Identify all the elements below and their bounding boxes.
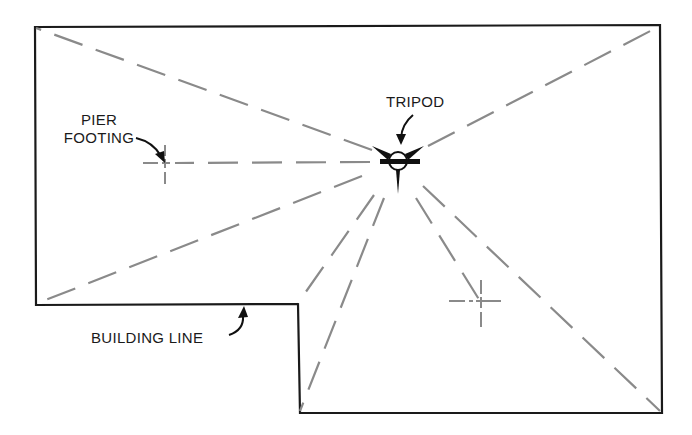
sight-line-right-pier xyxy=(416,198,480,301)
pier-footing-label-line1: PIER xyxy=(60,111,138,129)
tripod-arrowhead xyxy=(396,134,406,145)
sight-line-bottom-right xyxy=(423,186,660,411)
sight-line-left-pier xyxy=(175,162,370,163)
building-layout-diagram xyxy=(0,0,692,435)
pier-footing-arrowhead xyxy=(155,151,165,163)
pier-footing-label: PIER FOOTING xyxy=(60,111,138,147)
tripod-label: TRIPOD xyxy=(386,93,444,111)
sight-line-top-right xyxy=(428,27,658,146)
pier-footing-right-marker xyxy=(449,280,501,327)
sight-line-bottom-left xyxy=(38,176,362,303)
sight-line-notch-bottom xyxy=(300,198,384,411)
sight-line-notch-corner xyxy=(298,195,374,303)
building-line-arrow xyxy=(229,316,243,335)
pier-footing-label-line2: FOOTING xyxy=(60,129,138,147)
building-line-arrowhead xyxy=(238,306,248,318)
sight-lines xyxy=(36,27,660,411)
building-line-label: BUILDING LINE xyxy=(91,329,203,347)
tripod-icon xyxy=(372,146,424,194)
building-outline xyxy=(35,25,662,413)
